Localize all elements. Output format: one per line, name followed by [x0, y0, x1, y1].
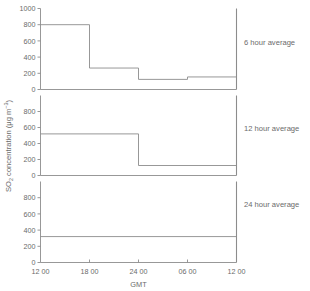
y-tick-label: 1000: [20, 4, 36, 13]
y-tick-label: 0: [32, 85, 36, 94]
y-axis-title-prefix: SO: [4, 181, 13, 192]
x-axis-title: GMT: [130, 280, 147, 289]
y-tick-label: 600: [24, 210, 36, 219]
y-tick-label: 400: [24, 53, 36, 62]
panel-2: 020040060080012 hour average: [24, 96, 300, 181]
y-tick-label: 400: [24, 139, 36, 148]
panel-1: 020040060080010006 hour average: [20, 4, 296, 94]
x-tick-label: 24 00: [130, 267, 148, 276]
panel-label-1: 6 hour average: [244, 38, 295, 47]
y-tick-label: 800: [24, 20, 36, 29]
x-tick-label: 06 00: [179, 267, 197, 276]
y-axis-title-middle: concentration (μg m: [4, 109, 13, 178]
y-tick-label: 0: [32, 171, 36, 180]
y-tick-label: 400: [24, 226, 36, 235]
so2-concentration-step-chart: 020040060080010006 hour average020040060…: [0, 0, 310, 291]
y-tick-label: 200: [24, 69, 36, 78]
panel-label-2: 12 hour average: [244, 124, 299, 133]
data-step-line: [41, 25, 237, 80]
x-tick-label: 12 00: [228, 267, 246, 276]
data-step-line: [41, 134, 237, 166]
y-tick-label: 800: [24, 193, 36, 202]
y-tick-label: 600: [24, 37, 36, 46]
y-axis-title: SO2 concentration (μg m−3): [3, 100, 13, 193]
x-tick-label: 12 00: [32, 267, 50, 276]
x-axis: 12 0018 0024 0006 0012 00: [32, 260, 246, 276]
x-tick-label: 18 00: [81, 267, 99, 276]
panel-3: 020040060080024 hour average: [24, 182, 300, 268]
panel-label-3: 24 hour average: [244, 200, 299, 209]
chart-figure: 020040060080010006 hour average020040060…: [0, 0, 310, 291]
y-tick-label: 800: [24, 107, 36, 116]
y-axis-title-suffix: ): [4, 100, 13, 103]
y-tick-label: 200: [24, 242, 36, 251]
y-tick-label: 600: [24, 123, 36, 132]
y-tick-label: 200: [24, 155, 36, 164]
